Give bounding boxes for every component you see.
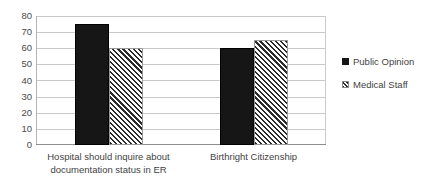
legend-label: Public Opinion [353,57,414,67]
category-label: Hospital should inquire about documentat… [36,150,181,176]
bar-public-opinion [220,48,254,145]
legend-swatch-hatch-icon [342,81,349,88]
y-axis-tick-label: 70 [21,27,32,37]
y-axis-tick-label: 0 [27,140,32,150]
bar-chart: 80 70 60 50 40 30 20 10 0 [0,0,437,190]
bar-groups [36,16,326,145]
y-axis-tick-label: 50 [21,60,32,70]
y-axis-tick-label: 40 [21,76,32,86]
category-label: Birthright Citizenship [181,150,326,176]
y-axis-tick-label: 30 [21,92,32,102]
y-axis-tick-label: 20 [21,108,32,118]
chart-legend: Public Opinion Medical Staff [342,57,437,102]
plot-area [36,16,326,145]
bar-group [36,16,181,145]
legend-item-medical-staff: Medical Staff [342,80,437,90]
bar-group [181,16,326,145]
legend-swatch-solid-icon [342,58,349,65]
y-axis-labels: 80 70 60 50 40 30 20 10 0 [0,16,32,145]
bar-medical-staff [254,40,288,145]
bar-medical-staff [109,48,143,145]
x-axis-category-labels: Hospital should inquire about documentat… [36,150,326,176]
y-axis-tick-label: 60 [21,44,32,54]
legend-item-public-opinion: Public Opinion [342,57,437,67]
legend-label: Medical Staff [353,80,408,90]
y-axis-tick-label: 10 [21,124,32,134]
y-axis-tick-label: 80 [21,11,32,21]
bar-public-opinion [75,24,109,145]
